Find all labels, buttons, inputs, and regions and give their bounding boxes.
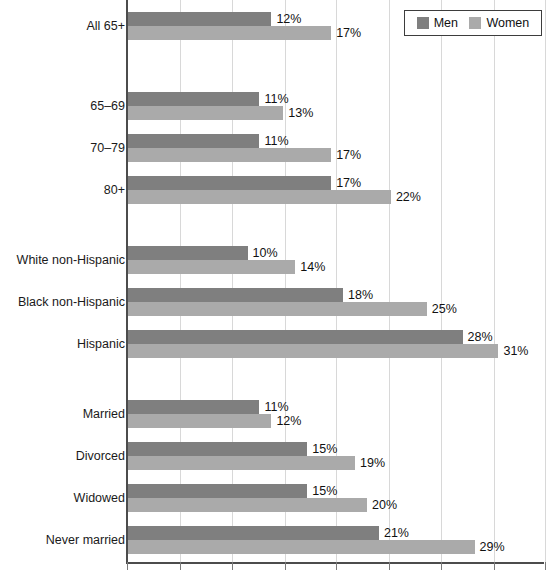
- bar-women: [128, 260, 295, 274]
- category-label: Hispanic: [0, 338, 125, 351]
- gridline-1: [180, 0, 181, 563]
- legend-entry-men: Men: [417, 17, 458, 30]
- legend-label-women: Women: [486, 17, 529, 30]
- bar-men: [128, 12, 271, 26]
- bar-women: [128, 106, 283, 120]
- bar-men: [128, 400, 259, 414]
- bar-women: [128, 456, 355, 470]
- bar-value-men: 15%: [312, 484, 337, 498]
- x-tick-7: [494, 562, 495, 570]
- category-label: White non-Hispanic: [0, 254, 125, 267]
- gridline-3: [285, 0, 286, 563]
- bar-value-men: 21%: [384, 526, 409, 540]
- gridline-8: [545, 0, 546, 563]
- x-tick-1: [180, 562, 181, 570]
- bar-men: [128, 526, 379, 540]
- chart-legend: Men Women: [404, 10, 542, 36]
- category-label: Widowed: [0, 492, 125, 505]
- bar-row: 65–6911%13%: [0, 92, 552, 120]
- bar-row: Married11%12%: [0, 400, 552, 428]
- bar-row: 70–7911%17%: [0, 134, 552, 162]
- bar-men: [128, 92, 259, 106]
- bar-value-women: 25%: [432, 302, 457, 316]
- bar-value-men: 15%: [312, 442, 337, 456]
- bar-women: [128, 26, 331, 40]
- bar-value-women: 20%: [372, 498, 397, 512]
- bar-row: White non-Hispanic10%14%: [0, 246, 552, 274]
- x-tick-4: [336, 562, 337, 570]
- bar-value-men: 10%: [253, 246, 278, 260]
- y-axis-line: [126, 0, 128, 564]
- gridline-2: [232, 0, 233, 563]
- bar-value-men: 12%: [276, 12, 301, 26]
- bar-men: [128, 288, 343, 302]
- bar-value-men: 17%: [336, 176, 361, 190]
- gridline-6: [441, 0, 442, 563]
- x-tick-3: [285, 562, 286, 570]
- bar-row: 80+17%22%: [0, 176, 552, 204]
- x-axis-line: [126, 562, 544, 564]
- legend-label-men: Men: [434, 17, 458, 30]
- bar-men: [128, 176, 331, 190]
- bar-men: [128, 134, 259, 148]
- bar-value-men: 28%: [468, 330, 493, 344]
- bar-men: [128, 246, 248, 260]
- bar-value-women: 17%: [336, 148, 361, 162]
- bar-value-men: 11%: [264, 92, 288, 106]
- bar-value-women: 22%: [396, 190, 421, 204]
- bar-women: [128, 190, 391, 204]
- bar-value-women: 13%: [288, 106, 313, 120]
- bar-value-women: 29%: [480, 540, 505, 554]
- category-label: Never married: [0, 534, 125, 547]
- bar-value-women: 14%: [300, 260, 325, 274]
- bar-chart: All 65+12%17%65–6911%13%70–7911%17%80+17…: [0, 0, 552, 575]
- bar-women: [128, 540, 475, 554]
- gridline-5: [389, 0, 390, 563]
- bar-row: Widowed15%20%: [0, 484, 552, 512]
- category-label: 70–79: [0, 142, 125, 155]
- bar-value-men: 11%: [264, 400, 288, 414]
- bar-row: Never married21%29%: [0, 526, 552, 554]
- category-label: Divorced: [0, 450, 125, 463]
- legend-entry-women: Women: [469, 17, 529, 30]
- bar-row: Hispanic28%31%: [0, 330, 552, 358]
- bar-row: Divorced15%19%: [0, 442, 552, 470]
- x-tick-0: [127, 562, 128, 570]
- category-label: Married: [0, 408, 125, 421]
- category-label: Black non-Hispanic: [0, 296, 125, 309]
- legend-swatch-women-icon: [469, 17, 481, 29]
- bar-value-men: 18%: [348, 288, 373, 302]
- category-label: 80+: [0, 184, 125, 197]
- bar-value-women: 19%: [360, 456, 385, 470]
- bar-value-women: 12%: [276, 414, 301, 428]
- category-label: All 65+: [0, 20, 125, 33]
- bar-value-men: 11%: [264, 134, 288, 148]
- bar-men: [128, 330, 463, 344]
- category-label: 65–69: [0, 100, 125, 113]
- x-tick-8: [545, 562, 546, 570]
- x-tick-6: [441, 562, 442, 570]
- bar-women: [128, 414, 271, 428]
- bar-women: [128, 344, 498, 358]
- legend-swatch-men-icon: [417, 17, 429, 29]
- bar-men: [128, 484, 307, 498]
- gridline-7: [494, 0, 495, 563]
- bar-women: [128, 498, 367, 512]
- x-tick-5: [389, 562, 390, 570]
- bar-men: [128, 442, 307, 456]
- bar-women: [128, 148, 331, 162]
- gridline-4: [336, 0, 337, 563]
- x-tick-2: [232, 562, 233, 570]
- bar-value-women: 17%: [336, 26, 361, 40]
- bar-women: [128, 302, 427, 316]
- bar-row: Black non-Hispanic18%25%: [0, 288, 552, 316]
- bar-value-women: 31%: [503, 344, 528, 358]
